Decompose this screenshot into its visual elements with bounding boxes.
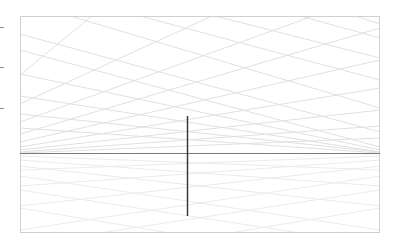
left-tick-mark	[0, 67, 4, 68]
left-tick-mark	[0, 27, 4, 28]
floor-grid	[20, 156, 380, 233]
left-tick-mark	[0, 108, 4, 109]
perspective-grid-view[interactable]	[0, 0, 397, 245]
3d-viewport-canvas[interactable]	[0, 0, 397, 245]
ceiling-grid	[20, 16, 380, 153]
